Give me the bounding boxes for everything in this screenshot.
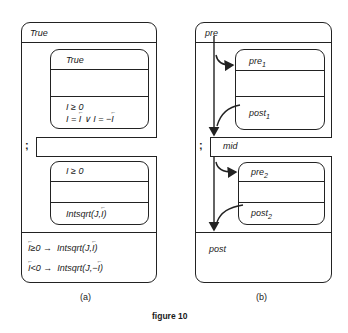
panel-b-flow-arrows	[0, 0, 348, 333]
figure-caption: figure 10	[152, 311, 187, 321]
